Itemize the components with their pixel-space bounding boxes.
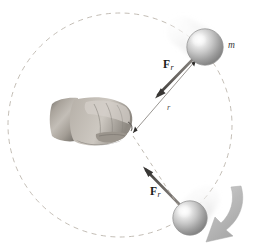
ball-mass-bottom (173, 201, 207, 235)
force-label-top-subscript: r (171, 63, 174, 72)
diagram-canvas (0, 0, 254, 249)
ball-mass-top (187, 29, 223, 65)
mass-label: m (228, 41, 235, 51)
physics-diagram-circular-motion: Fr Fr r m (0, 0, 254, 249)
force-vector-centripetal-top (155, 55, 197, 99)
force-label-top: Fr (163, 59, 174, 72)
force-label-top-symbol: F (163, 58, 170, 70)
force-vector-centripetal-bottom (143, 167, 182, 208)
force-label-bottom-symbol: F (150, 185, 157, 197)
hand-fist-holding-string (50, 97, 133, 145)
force-label-bottom: Fr (150, 186, 161, 199)
radius-label: r (167, 103, 170, 112)
force-label-bottom-subscript: r (158, 190, 161, 199)
